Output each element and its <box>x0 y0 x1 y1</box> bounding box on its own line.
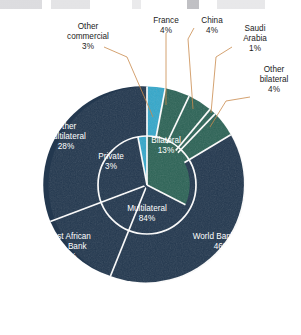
slice-label-west-african-value: 10% <box>60 252 76 261</box>
callout-other-commercial-line1: Other <box>78 22 99 31</box>
slice-label-multilateral-value: 84% <box>139 214 155 223</box>
callout-other-bilateral-line2: bilateral <box>260 75 289 84</box>
callout-other-commercial-line2: commercial <box>67 32 109 41</box>
callout-labels: Other commercial 3% France 4% China 4% S… <box>67 16 288 94</box>
slice-label-west-african-line1: West African <box>45 232 91 241</box>
pie-chart-figure: Other commercial 3% France 4% China 4% S… <box>0 0 301 335</box>
slice-label-private-value: 3% <box>105 162 117 171</box>
leader-saudi-arabia <box>211 47 232 113</box>
sunburst-pie-chart: Other commercial 3% France 4% China 4% S… <box>0 0 301 335</box>
slice-label-private-name: Private <box>98 152 124 161</box>
slice-label-world-bank-ida-value: 46% <box>214 242 230 251</box>
callout-saudi-arabia-line1: Saudi <box>245 24 266 33</box>
slice-label-other-multilateral-value: 28% <box>58 142 74 151</box>
callout-other-bilateral-line1: Other <box>264 65 285 74</box>
callout-other-bilateral-value: 4% <box>268 85 280 94</box>
slice-label-west-african-line2: Dev. Bank <box>49 242 87 251</box>
callout-saudi-arabia-value: 1% <box>249 44 261 53</box>
callout-saudi-arabia-line2: Arabia <box>243 34 267 43</box>
slice-label-bilateral-value: 13% <box>158 146 174 155</box>
slice-label-multilateral-name: Multilateral <box>127 204 167 213</box>
callout-china-value: 4% <box>206 26 218 35</box>
slice-label-other-multilateral-line2: multilateral <box>46 132 86 141</box>
slice-label-bilateral-name: Bilateral <box>151 136 181 145</box>
callout-france-line1: France <box>153 16 179 25</box>
callout-other-commercial-value: 3% <box>82 42 94 51</box>
callout-france-value: 4% <box>160 26 172 35</box>
slice-label-world-bank-ida-name: World Bank-IDA <box>193 232 252 241</box>
slice-label-other-multilateral-line1: Other <box>56 122 77 131</box>
callout-china-line1: China <box>201 16 223 25</box>
